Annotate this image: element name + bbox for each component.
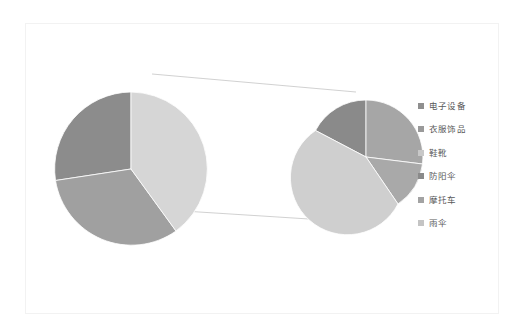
- legend-label-5: 雨伞: [429, 218, 447, 228]
- chart-frame: 电子设备 衣服饰品 鞋靴 防阳伞 摩托车 雨伞: [25, 23, 499, 314]
- legend-label-0: 电子设备: [429, 101, 466, 111]
- legend-item-5[interactable]: 雨伞: [418, 212, 506, 236]
- plot-area: [26, 24, 426, 315]
- legend-label-4: 摩托车: [429, 195, 457, 205]
- pie-of-pie-svg: [26, 24, 426, 315]
- legend-item-0[interactable]: 电子设备: [418, 94, 506, 118]
- legend-swatch-icon-0: [418, 103, 424, 109]
- chart-legend: 电子设备 衣服饰品 鞋靴 防阳伞 摩托车 雨伞: [418, 94, 506, 235]
- main-pie-slice-electronics[interactable]: [55, 92, 131, 181]
- legend-item-4[interactable]: 摩托车: [418, 188, 506, 212]
- secondary-pie: [290, 100, 423, 235]
- main-pie: [55, 92, 208, 245]
- legend-swatch-icon-1: [418, 126, 424, 132]
- legend-label-3: 防阳伞: [429, 171, 457, 181]
- legend-swatch-icon-3: [418, 173, 424, 179]
- legend-swatch-icon-5: [418, 220, 424, 226]
- chart-screenshot: 电子设备 衣服饰品 鞋靴 防阳伞 摩托车 雨伞: [0, 0, 524, 335]
- legend-label-2: 鞋靴: [429, 148, 447, 158]
- legend-swatch-icon-2: [418, 150, 424, 156]
- secondary-pie-slice-footwear[interactable]: [366, 100, 423, 164]
- legend-item-1[interactable]: 衣服饰品: [418, 118, 506, 142]
- legend-swatch-icon-4: [418, 197, 424, 203]
- connector-line-top: [152, 74, 356, 92]
- legend-label-1: 衣服饰品: [429, 124, 466, 134]
- legend-item-3[interactable]: 防阳伞: [418, 165, 506, 189]
- legend-item-2[interactable]: 鞋靴: [418, 141, 506, 165]
